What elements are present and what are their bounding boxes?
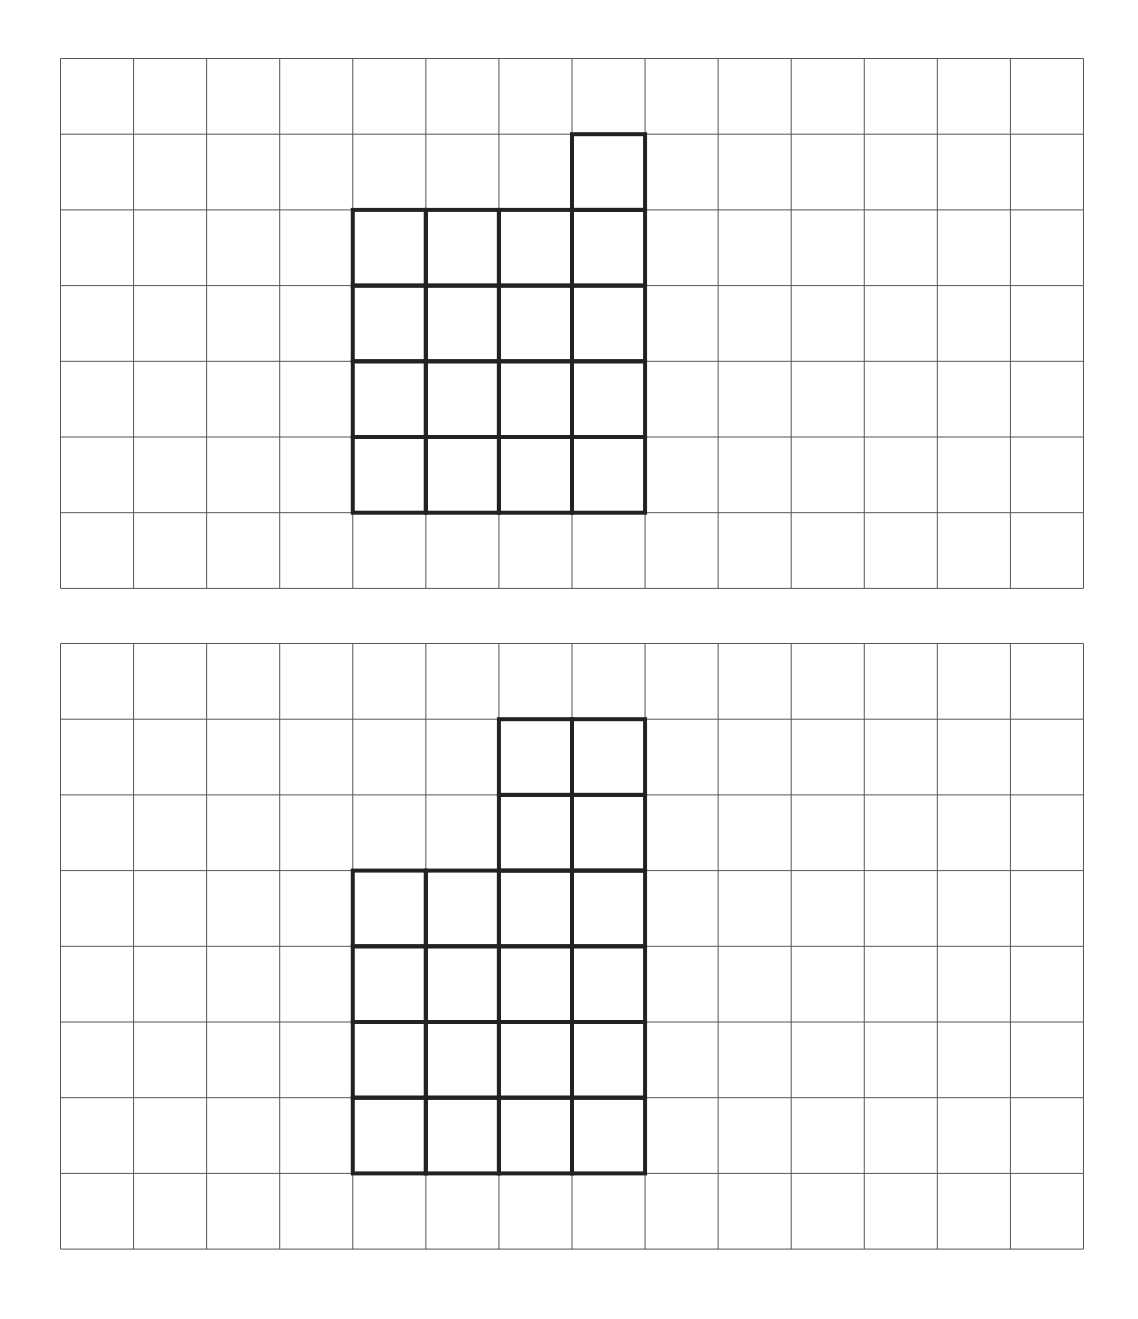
- highlighted-cell: [572, 361, 645, 437]
- highlighted-cell: [353, 286, 426, 362]
- highlighted-cell: [426, 1022, 499, 1098]
- highlighted-cell: [353, 361, 426, 437]
- highlighted-cell: [499, 286, 572, 362]
- highlighted-cell: [572, 871, 645, 947]
- highlighted-cell: [426, 946, 499, 1022]
- grid-bottom: [60, 643, 1086, 1250]
- highlighted-cell: [572, 795, 645, 871]
- highlighted-cell: [353, 946, 426, 1022]
- highlighted-cell: [499, 719, 572, 795]
- highlighted-cell: [353, 1098, 426, 1174]
- highlighted-cell: [572, 719, 645, 795]
- highlighted-cell: [572, 1022, 645, 1098]
- highlighted-cell: [572, 946, 645, 1022]
- highlighted-cell: [426, 361, 499, 437]
- highlighted-cell: [572, 286, 645, 362]
- highlighted-cell: [353, 210, 426, 286]
- highlighted-cell: [499, 210, 572, 286]
- highlighted-cell: [426, 210, 499, 286]
- highlighted-cell: [499, 1098, 572, 1174]
- highlighted-cell: [426, 1098, 499, 1174]
- highlighted-cell: [499, 946, 572, 1022]
- highlighted-cell: [572, 210, 645, 286]
- highlighted-cell: [572, 1098, 645, 1174]
- highlighted-cell: [426, 286, 499, 362]
- highlighted-cell: [353, 1022, 426, 1098]
- highlighted-cell: [353, 437, 426, 513]
- highlighted-cell: [499, 871, 572, 947]
- highlighted-cell: [572, 134, 645, 210]
- highlighted-cell: [572, 437, 645, 513]
- highlighted-cell: [353, 871, 426, 947]
- highlighted-cell: [499, 795, 572, 871]
- highlighted-cell: [499, 361, 572, 437]
- highlighted-cell: [426, 437, 499, 513]
- grid-top: [60, 58, 1086, 591]
- highlighted-cell: [499, 437, 572, 513]
- highlighted-cell: [499, 1022, 572, 1098]
- highlighted-cell: [426, 871, 499, 947]
